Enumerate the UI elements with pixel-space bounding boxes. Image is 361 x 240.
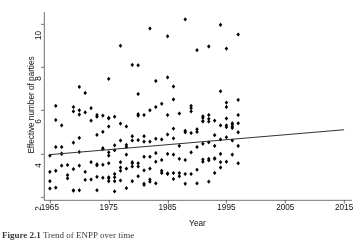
y-tick-label: 4	[34, 153, 43, 177]
figure-caption: Figure 2.1 Trend of ENPP over time	[2, 230, 359, 240]
x-tick-label: 1995	[206, 203, 246, 212]
x-tick-label: 1975	[89, 203, 129, 212]
y-tick-label: 2	[34, 196, 43, 220]
x-axis-title: Year	[44, 218, 351, 228]
caption-text: Trend of ENPP over time	[43, 230, 134, 240]
x-tick-label: 2005	[265, 203, 305, 212]
y-tick-label: 10	[34, 23, 43, 47]
x-tick-label: 1985	[148, 203, 188, 212]
x-tick-label: 2015	[324, 203, 361, 212]
y-tick-label: 8	[34, 66, 43, 90]
figure-container: Effective number of parties Year 1965197…	[0, 0, 361, 240]
y-tick-label: 6	[34, 110, 43, 134]
caption-label: Figure 2.1	[2, 230, 41, 240]
